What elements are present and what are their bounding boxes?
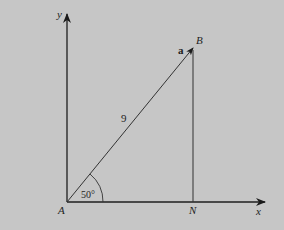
y-axis-label: y <box>56 8 62 20</box>
x-axis-label: x <box>255 205 261 217</box>
magnitude-label: 9 <box>121 112 127 124</box>
diagram-canvas: y x A B N a 9 50° <box>0 0 284 230</box>
vector-label: a <box>178 44 184 56</box>
point-N-label: N <box>188 204 197 216</box>
vector-diagram: y x A B N a 9 50° <box>0 0 284 230</box>
point-A-label: A <box>57 204 65 216</box>
vector-a <box>67 48 193 202</box>
angle-label: 50° <box>81 189 95 200</box>
point-B-label: B <box>196 34 203 46</box>
